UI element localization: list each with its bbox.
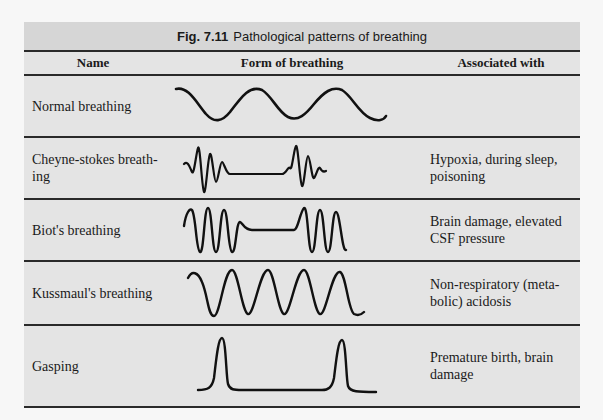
row-associated: Non-respiratory (meta-bolic) acidosis bbox=[422, 276, 580, 310]
table-row-kussmaul: Kussmaul's breathing Non-respiratory (me… bbox=[24, 262, 580, 326]
figure-number: Fig. 7.11 bbox=[177, 29, 228, 44]
row-name: Kussmaul's breathing bbox=[24, 285, 162, 302]
column-header-form: Form of breathing bbox=[162, 55, 422, 71]
regular-sine-wave-icon bbox=[162, 76, 422, 136]
row-associated: Brain damage, elevated CSF pressure bbox=[422, 213, 580, 247]
column-header-name: Name bbox=[24, 55, 162, 71]
deep-burst-with-apnea-wave-icon bbox=[162, 200, 422, 260]
deep-rapid-wave-icon bbox=[162, 262, 422, 324]
row-name: Biot's breathing bbox=[24, 222, 162, 239]
figure-title: Pathological patterns of breathing bbox=[233, 29, 427, 44]
table-row-biots: Biot's breathing Brain damage, elevated … bbox=[24, 200, 580, 262]
column-header-associated: Associated with bbox=[422, 55, 580, 71]
row-name: Normal breathing bbox=[24, 98, 162, 115]
figure-caption: Fig. 7.11 Pathological patterns of breat… bbox=[24, 22, 580, 52]
table-header: Name Form of breathing Associated with bbox=[24, 52, 580, 76]
row-associated: Hypoxia, during sleep, poisoning bbox=[422, 151, 580, 185]
table-row-gasping: Gasping Premature birth, brain damage bbox=[24, 326, 580, 408]
row-name: Cheyne-stokes breath-ing bbox=[24, 151, 162, 185]
isolated-spike-wave-icon bbox=[162, 326, 422, 406]
row-name: Gasping bbox=[24, 358, 162, 375]
crescendo-decrescendo-with-apnea-wave-icon bbox=[162, 138, 422, 198]
table-row-normal: Normal breathing bbox=[24, 76, 580, 138]
breathing-patterns-figure: Fig. 7.11 Pathological patterns of breat… bbox=[24, 22, 580, 408]
row-associated: Premature birth, brain damage bbox=[422, 349, 580, 383]
table-row-cheyne-stokes: Cheyne-stokes breath-ing Hypoxia, during… bbox=[24, 138, 580, 200]
